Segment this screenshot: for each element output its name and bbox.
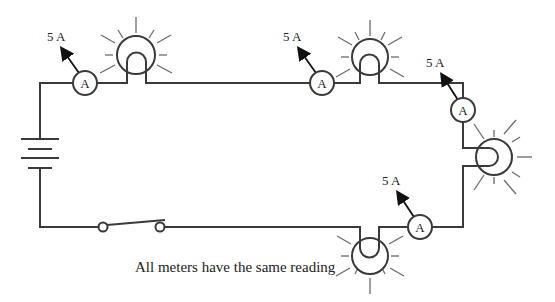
switch[interactable]: [99, 220, 166, 232]
ammeter-label: A: [317, 76, 327, 91]
ammeter-reading: 5 A: [283, 29, 302, 44]
diagram-caption: All meters have the same reading: [135, 259, 335, 276]
ammeter-label: A: [458, 103, 468, 118]
bulb-1: [100, 17, 172, 74]
ammeter-reading: 5 A: [47, 29, 66, 44]
ammeter-2: A 5 A: [283, 29, 334, 95]
ammeter-label: A: [80, 76, 90, 91]
bulb-2: [336, 20, 404, 77]
ammeter-label: A: [415, 220, 425, 235]
battery-icon: [21, 139, 59, 168]
ammeter-1: A 5 A: [47, 29, 97, 95]
ammeter-reading: 5 A: [426, 55, 445, 70]
ammeter-3: A 5 A: [426, 55, 475, 122]
ammeter-reading: 5 A: [382, 173, 401, 188]
ammeter-4: A 5 A: [382, 173, 432, 239]
bulb-3: [474, 120, 532, 194]
circuit-diagram: A 5 A A 5 A A 5 A A 5 A: [0, 0, 555, 302]
bulb-4: [336, 236, 404, 294]
